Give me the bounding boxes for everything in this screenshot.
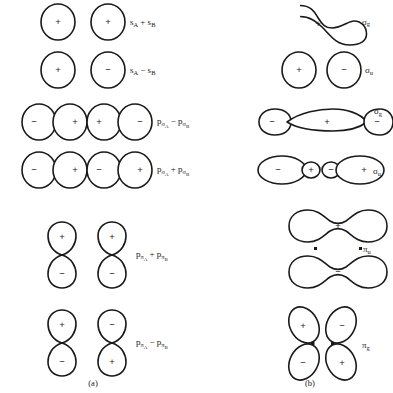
sign-plus: +: [96, 116, 102, 127]
label-ppi-plus-ppi: pπA+pπB: [136, 249, 169, 262]
sign-minus: −: [339, 320, 345, 331]
sign-plus: +: [59, 319, 65, 330]
sign-plus: +: [308, 164, 314, 175]
sign-minus: −: [328, 164, 334, 175]
label-s-minus-s: sA−sB: [130, 65, 155, 76]
peanut-orbital-sigma-g: [300, 6, 367, 46]
sign-plus: +: [335, 220, 341, 231]
p-orbital-lobe-left: [87, 104, 121, 140]
row-1-left-combination-s-plus-s: + + sA+sB: [41, 4, 155, 40]
p-orbital-lobe-right: [53, 152, 87, 188]
sign-minus: −: [341, 64, 347, 75]
sign-minus: −: [374, 116, 380, 127]
p-orbital-lobe-left: [22, 152, 56, 188]
node-dot-left: [314, 247, 317, 250]
caption-a: (a): [88, 378, 98, 388]
sign-plus: +: [109, 356, 115, 367]
sign-minus: −: [96, 164, 102, 175]
sign-plus: +: [137, 164, 143, 175]
sign-minus: −: [31, 164, 37, 175]
label-ppi-minus-ppi: pπA−pπB: [136, 337, 169, 350]
p-orbital-lobe-left: [22, 104, 56, 140]
row-5-left-combination-ppi-plus-ppi: + − + − pπA+pπB: [48, 222, 169, 288]
label-psigma-minus-psigma: pσA−pσB: [157, 116, 190, 129]
sign-minus: −: [109, 319, 115, 330]
sign-minus: −: [300, 357, 306, 368]
sign-plus: +: [296, 64, 302, 75]
node-dot-right: [331, 342, 335, 345]
row-4-left-combination-psigma-plus-psigma: − + − + pσA+pσB: [22, 152, 190, 188]
row-3-left-combination-psigma-minus-psigma: − + + − pσA−pσB: [22, 104, 190, 140]
node-dot-left: [311, 342, 315, 345]
row-4-right-mo-sigma-u-antibonding-p: − + − + σu: [258, 156, 384, 184]
row-1-right-mo-sigma-g-bonding-s: + σg: [300, 6, 371, 46]
sign-plus: +: [300, 320, 306, 331]
sign-plus: +: [339, 357, 345, 368]
caption-b: (b): [305, 378, 315, 388]
row-5-right-mo-pi-u-bonding: + − πu: [289, 210, 387, 288]
sign-plus: +: [72, 116, 78, 127]
row-2-left-combination-s-minus-s: + − sA−sB: [41, 52, 155, 88]
sign-plus: +: [55, 64, 61, 75]
sign-minus: −: [109, 268, 115, 279]
p-orbital-lobe-left: [87, 152, 121, 188]
sign-minus: −: [275, 164, 281, 175]
sign-minus: −: [59, 268, 65, 279]
row-2-right-mo-sigma-u-antibonding-s: + − σu: [282, 52, 374, 88]
p-orbital-lobe-right: [53, 104, 87, 140]
sign-minus: −: [105, 64, 111, 75]
sign-plus: +: [324, 116, 330, 127]
row-3-right-mo-sigma-g-bonding-p: − + − σg: [259, 106, 393, 135]
p-orbital-lobe-right: [118, 152, 152, 188]
node-dot-right: [359, 247, 362, 250]
row-6-left-combination-ppi-minus-ppi: + − − + pπA−pπB: [48, 310, 169, 376]
label-pi-g: πg: [362, 340, 371, 351]
sign-plus: +: [315, 18, 321, 29]
sign-plus: +: [105, 16, 111, 27]
label-sigma-g: σg: [374, 106, 383, 117]
sign-minus: −: [269, 116, 275, 127]
p-orbital-lobe-right: [118, 104, 152, 140]
sign-plus: +: [361, 164, 367, 175]
label-s-plus-s: sA+sB: [130, 17, 155, 28]
sign-minus: −: [137, 116, 143, 127]
sign-minus: −: [31, 116, 37, 127]
label-sigma-g: σg: [362, 17, 371, 28]
sign-plus: +: [59, 231, 65, 242]
sign-plus: +: [109, 231, 115, 242]
orbital-diagram-figure: + + sA+sB + σg + − sA−sB + − σu − + + − …: [0, 0, 393, 393]
row-6-right-mo-pi-g-antibonding: + − − + πg: [283, 302, 371, 386]
sign-minus: −: [59, 356, 65, 367]
label-psigma-plus-psigma: pσA+pσB: [157, 164, 190, 177]
label-pi-u: πu: [363, 244, 372, 255]
orbital-diagram-canvas: + + sA+sB + σg + − sA−sB + − σu − + + − …: [0, 0, 393, 393]
sign-plus: +: [72, 164, 78, 175]
sign-minus: −: [335, 266, 341, 277]
orbital-lobe-large-left: [258, 156, 306, 184]
sign-plus: +: [55, 16, 61, 27]
label-sigma-u: σu: [365, 65, 374, 76]
